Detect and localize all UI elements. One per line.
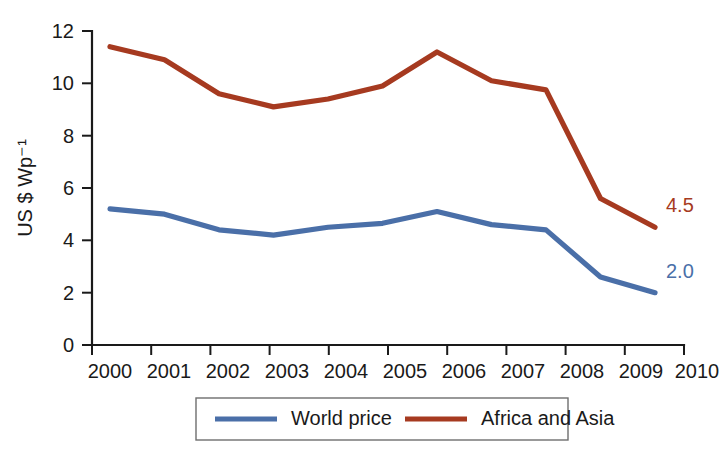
chart-figure: 12 10 8 6 4 2 0 US $ Wp⁻¹ (0, 0, 720, 454)
x-tick-label-2002: 2002 (206, 360, 251, 382)
x-axis-ticks (92, 345, 684, 355)
legend-label-world-price: World price (291, 407, 392, 429)
x-tick-label-2005: 2005 (383, 360, 428, 382)
y-axis-title: US $ Wp⁻¹ (14, 139, 36, 237)
y-tick-label-6: 6 (63, 177, 74, 199)
y-tick-label-4: 4 (63, 229, 74, 251)
annotation-world-price-endpoint: 2.0 (666, 260, 694, 282)
x-tick-label-2003: 2003 (265, 360, 310, 382)
y-tick-label-0: 0 (63, 334, 74, 356)
endpoint-annotations: 4.5 2.0 (666, 194, 694, 282)
x-tick-label-2010: 2010 (675, 360, 720, 382)
legend: World price Africa and Asia (196, 398, 615, 440)
x-tick-label-2001: 2001 (147, 360, 192, 382)
series-line-africa-and-asia (110, 47, 655, 228)
legend-label-africa-and-asia: Africa and Asia (481, 407, 615, 429)
plot-area (110, 47, 655, 293)
x-tick-label-2009: 2009 (619, 360, 664, 382)
y-axis-ticks (82, 31, 92, 345)
series-line-world-price (110, 209, 655, 293)
x-tick-label-2007: 2007 (501, 360, 546, 382)
y-tick-label-2: 2 (63, 282, 74, 304)
y-tick-label-8: 8 (63, 125, 74, 147)
x-tick-label-2006: 2006 (442, 360, 487, 382)
x-tick-label-2004: 2004 (324, 360, 369, 382)
x-axis: 2000 2001 2002 2003 2004 2005 2006 2007 … (88, 345, 720, 382)
y-tick-label-10: 10 (52, 72, 74, 94)
y-axis: 12 10 8 6 4 2 0 US $ Wp⁻¹ (14, 20, 92, 356)
line-chart: 12 10 8 6 4 2 0 US $ Wp⁻¹ (0, 0, 720, 454)
x-tick-label-2008: 2008 (560, 360, 605, 382)
y-tick-label-12: 12 (52, 20, 74, 42)
annotation-africa-and-asia-endpoint: 4.5 (666, 194, 694, 216)
x-tick-label-2000: 2000 (88, 360, 133, 382)
